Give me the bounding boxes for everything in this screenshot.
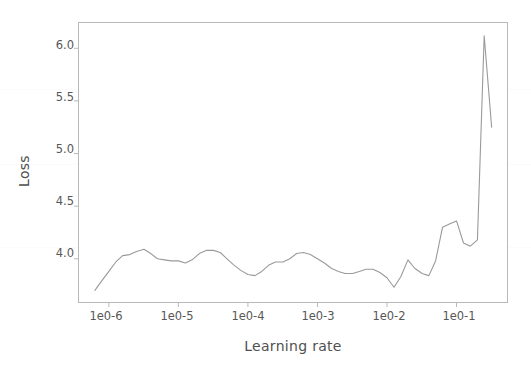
y-tick-label: 5.0: [40, 142, 74, 156]
y-tick-label: 4.5: [40, 194, 74, 208]
y-tick-label: 6.0: [40, 38, 74, 52]
x-tick-label: 1e0-6: [76, 309, 136, 323]
y-tick-label: 5.5: [40, 90, 74, 104]
x-tick-label: 1e0-4: [218, 309, 278, 323]
y-tick-label-group: 4.0 4.5 5.0 5.5 6.0: [34, 0, 74, 377]
y-axis-label: Loss: [10, 131, 38, 211]
x-tick-label: 1e0-2: [359, 309, 419, 323]
x-tick-label: 1e0-5: [147, 309, 207, 323]
x-tick-label: 1e0-1: [429, 309, 489, 323]
y-tick-label: 4.0: [40, 246, 74, 260]
plot-area: [78, 22, 508, 303]
x-axis-label: Learning rate: [78, 338, 508, 354]
y-axis-label-text: Loss: [16, 155, 32, 187]
figure-canvas: 4.0 4.5 5.0 5.5 6.0 1e0-6 1e0-5 1e0-4 1e…: [0, 0, 531, 377]
x-tick-marks: [109, 303, 457, 307]
x-tick-label: 1e0-3: [288, 309, 348, 323]
